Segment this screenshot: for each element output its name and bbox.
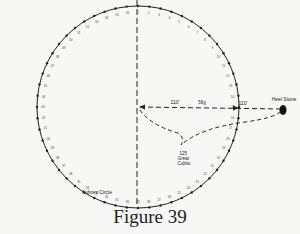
hole-number: 41 bbox=[44, 126, 48, 130]
hole-number: 36 bbox=[69, 172, 73, 176]
hole-number: 49 bbox=[62, 46, 66, 50]
aubrey-hole bbox=[200, 27, 202, 29]
aubrey-hole bbox=[237, 117, 239, 119]
hole-number: 53 bbox=[95, 20, 99, 24]
hole-number: 40 bbox=[47, 137, 51, 141]
aubrey-hole bbox=[235, 128, 237, 130]
hole-number: 43 bbox=[41, 105, 45, 109]
distance-right-label: 110' bbox=[239, 100, 248, 106]
aubrey-hole bbox=[51, 52, 53, 54]
aubrey-hole bbox=[51, 160, 53, 162]
hole-number: 9 bbox=[211, 46, 213, 50]
aubrey-hole bbox=[237, 95, 239, 97]
aubrey-hole bbox=[216, 169, 218, 171]
hole-number: 18 bbox=[226, 137, 230, 141]
hole-number: 39 bbox=[51, 146, 55, 150]
hole-number: 30 bbox=[126, 200, 130, 204]
aubrey-hole bbox=[191, 191, 193, 193]
heel-stone-icon bbox=[280, 105, 287, 115]
aubrey-circle-diagram: 1234567891011121314151617181920212223242… bbox=[0, 0, 300, 234]
hole-number: 5 bbox=[178, 20, 180, 24]
aubrey-hole bbox=[159, 7, 161, 9]
curved-path bbox=[140, 110, 281, 145]
hole-number: 25 bbox=[178, 191, 182, 195]
hole-number: 50 bbox=[69, 38, 73, 42]
aubrey-hole bbox=[191, 20, 193, 22]
aubrey-hole bbox=[58, 169, 60, 171]
aubrey-hole bbox=[58, 43, 60, 45]
distance-left-label: 110' bbox=[171, 99, 180, 105]
hole-number: 46 bbox=[47, 74, 51, 78]
hole-number: 45 bbox=[44, 84, 48, 88]
center-mark-label: 56g bbox=[198, 100, 206, 105]
aubrey-hole bbox=[38, 128, 40, 130]
hole-number: 51 bbox=[77, 31, 81, 35]
hole-number: 4 bbox=[169, 16, 171, 20]
hole-number: 8 bbox=[204, 38, 206, 42]
aubrey-hole bbox=[148, 5, 150, 7]
hole-number: 28 bbox=[147, 200, 151, 204]
aubrey-hole bbox=[170, 201, 172, 203]
hole-number: 26 bbox=[168, 195, 172, 199]
hole-number: 6 bbox=[188, 25, 190, 29]
hole-number: 56 bbox=[126, 11, 130, 15]
aubrey-hole bbox=[74, 27, 76, 29]
aubrey-hole bbox=[232, 139, 234, 141]
hole-number: 13 bbox=[229, 84, 233, 88]
cubits-label: 125 Great Cubits bbox=[178, 151, 192, 166]
aubrey-hole bbox=[200, 185, 202, 187]
hole-number: 55 bbox=[115, 13, 119, 17]
aubrey-hole bbox=[216, 43, 218, 45]
hole-number: 11 bbox=[222, 64, 225, 68]
aubrey-hole bbox=[36, 117, 38, 119]
hole-number: 44 bbox=[42, 95, 46, 99]
aubrey-holes: 1234567891011121314151617181920212223242… bbox=[36, 5, 240, 209]
hole-number: 31 bbox=[115, 198, 119, 202]
heel-stone-line bbox=[140, 107, 281, 109]
aubrey-hole bbox=[38, 83, 40, 85]
hole-number: 3 bbox=[158, 13, 160, 17]
hole-number: 37 bbox=[62, 164, 66, 168]
aubrey-hole bbox=[235, 83, 237, 85]
aubrey-hole bbox=[36, 95, 38, 97]
aubrey-hole bbox=[42, 139, 44, 141]
hole-number: 16 bbox=[231, 116, 235, 120]
hole-number: 42 bbox=[42, 116, 46, 120]
hole-number: 32 bbox=[105, 195, 109, 199]
aubrey-hole bbox=[232, 72, 234, 74]
aubrey-hole bbox=[228, 62, 230, 64]
arrowhead-icon bbox=[139, 105, 145, 110]
aubrey-hole bbox=[93, 197, 95, 199]
aubrey-hole bbox=[126, 5, 128, 7]
hole-number: 52 bbox=[86, 25, 90, 29]
aubrey-hole bbox=[103, 11, 105, 13]
hole-number: 2 bbox=[148, 11, 150, 15]
hole-number: 10 bbox=[217, 55, 221, 59]
aubrey-hole bbox=[93, 15, 95, 17]
aubrey-hole bbox=[208, 34, 210, 36]
heel-stone-label: Heel Stone bbox=[272, 96, 297, 102]
hole-number: 21 bbox=[211, 164, 215, 168]
hole-number: 14 bbox=[231, 95, 235, 99]
hole-number: 17 bbox=[229, 126, 233, 130]
aubrey-hole bbox=[36, 106, 38, 108]
hole-number: 19 bbox=[222, 146, 226, 150]
aubrey-hole bbox=[222, 52, 224, 54]
hole-number: 27 bbox=[157, 198, 161, 202]
hole-number: 20 bbox=[217, 156, 221, 160]
hole-number: 7 bbox=[196, 31, 198, 35]
hole-number: 48 bbox=[56, 55, 60, 59]
hole-number: 12 bbox=[226, 74, 230, 78]
figure-caption: Figure 39 bbox=[0, 206, 300, 228]
aubrey-hole bbox=[65, 177, 67, 179]
hole-number: 23 bbox=[196, 180, 200, 184]
hole-number: 22 bbox=[204, 172, 208, 176]
aubrey-hole bbox=[181, 15, 183, 17]
aubrey-hole bbox=[46, 62, 48, 64]
aubrey-hole bbox=[222, 160, 224, 162]
aubrey-hole bbox=[65, 34, 67, 36]
hole-number: 35 bbox=[77, 180, 81, 184]
aubrey-hole bbox=[181, 197, 183, 199]
aubrey-hole bbox=[170, 11, 172, 13]
aubrey-hole bbox=[103, 201, 105, 203]
